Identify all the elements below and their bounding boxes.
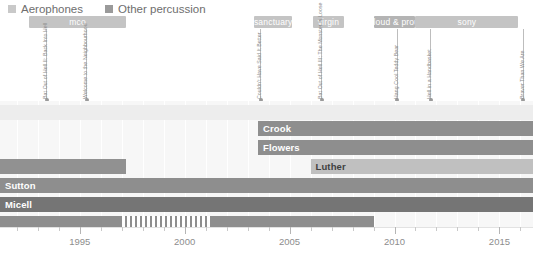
axis-tick-minor [17, 227, 18, 231]
axis-tick-label: 1995 [69, 236, 90, 247]
axis-tick-label: 2005 [279, 236, 300, 247]
bar-label: Flowers [263, 140, 300, 155]
axis-tick-label: 2010 [384, 236, 405, 247]
axis-tick-minor [206, 227, 207, 231]
timeline-bar-micell[interactable]: Micell [0, 197, 533, 212]
era-label: loud & proud [374, 16, 416, 28]
axis-tick-minor [374, 227, 375, 231]
axis-tick-minor [269, 227, 270, 231]
legend-entry: Aerophones [8, 4, 83, 15]
timeline-bar-luther[interactable]: Luther [311, 159, 533, 174]
axis-tick-minor [227, 227, 228, 231]
timeline-bar[interactable] [0, 159, 126, 174]
axis-tick-minor [143, 227, 144, 231]
axis-tick-minor [311, 227, 312, 231]
event-markers: Bat Out of Hell II: Back Into HellWelcom… [0, 29, 533, 101]
axis-tick-major [80, 227, 81, 234]
x-axis: 19952000200520102015 [0, 227, 533, 257]
axis-tick-minor [415, 227, 416, 231]
legend-swatch-icon [8, 5, 16, 13]
chart-legend: AerophonesOther percussion [8, 2, 206, 16]
axis-tick-minor [248, 227, 249, 231]
axis-tick-major [290, 227, 291, 234]
event-marker: Couldn't Have Said It Better [260, 29, 261, 101]
axis-tick-minor [520, 227, 521, 231]
axis-tick-minor [457, 227, 458, 231]
legend-entry: Other percussion [105, 4, 206, 15]
legend-label: Other percussion [118, 4, 206, 15]
axis-tick-label: 2015 [489, 236, 510, 247]
axis-tick-minor [332, 227, 333, 231]
timeline-chart: AerophonesOther percussion mcosanctuaryv… [0, 0, 533, 257]
axis-tick-major [185, 227, 186, 234]
bar-label: Micell [5, 197, 32, 212]
plot-area: CrookFlowersLutherSuttonMicell [0, 101, 533, 227]
event-title: Bat Out of Hell III: The Monster Is Loos… [317, 2, 323, 99]
event-marker: Braver Than We Are [523, 29, 524, 101]
event-title: Bat Out of Hell II: Back Into Hell [42, 23, 48, 99]
era-label: sanctuary [254, 16, 292, 28]
era-label: sony [415, 16, 518, 28]
axis-tick-minor [122, 227, 123, 231]
axis-tick-minor [478, 227, 479, 231]
event-title: Welcome to the Neighbourhood [82, 23, 88, 99]
timeline-bar-crook[interactable]: Crook [258, 121, 533, 136]
timeline-bar-flowers[interactable]: Flowers [258, 140, 533, 155]
legend-swatch-icon [105, 5, 113, 13]
event-title: Couldn't Have Said It Better [256, 32, 262, 99]
bar-label: Luther [316, 159, 346, 174]
timeline-bar[interactable] [0, 105, 533, 120]
axis-tick-label: 2000 [174, 236, 195, 247]
event-marker: Welcome to the Neighbourhood [86, 29, 87, 101]
timeline-bar-sutton[interactable]: Sutton [0, 178, 533, 193]
axis-tick-minor [101, 227, 102, 231]
bar-label: Crook [263, 121, 291, 136]
axis-tick-major [395, 227, 396, 234]
event-marker: Bat Out of Hell II: Back Into Hell [46, 29, 47, 101]
bar-label: Sutton [5, 178, 36, 193]
axis-tick-minor [38, 227, 39, 231]
axis-tick-major [499, 227, 500, 234]
axis-tick-minor [436, 227, 437, 231]
event-marker: Hell in a Handbasket [430, 29, 431, 101]
era-band: mcosanctuaryvirginloud & proudsony [0, 16, 533, 29]
event-marker: Hang Cool Teddy Bear [397, 29, 398, 101]
axis-tick-minor [164, 227, 165, 231]
event-title: Hell in a Handbasket [426, 49, 432, 99]
event-marker: Bat Out of Hell III: The Monster Is Loos… [321, 29, 322, 101]
event-title: Braver Than We Are [519, 50, 525, 99]
legend-label: Aerophones [21, 4, 83, 15]
event-title: Hang Cool Teddy Bear [393, 45, 399, 99]
axis-tick-minor [353, 227, 354, 231]
axis-tick-minor [59, 227, 60, 231]
